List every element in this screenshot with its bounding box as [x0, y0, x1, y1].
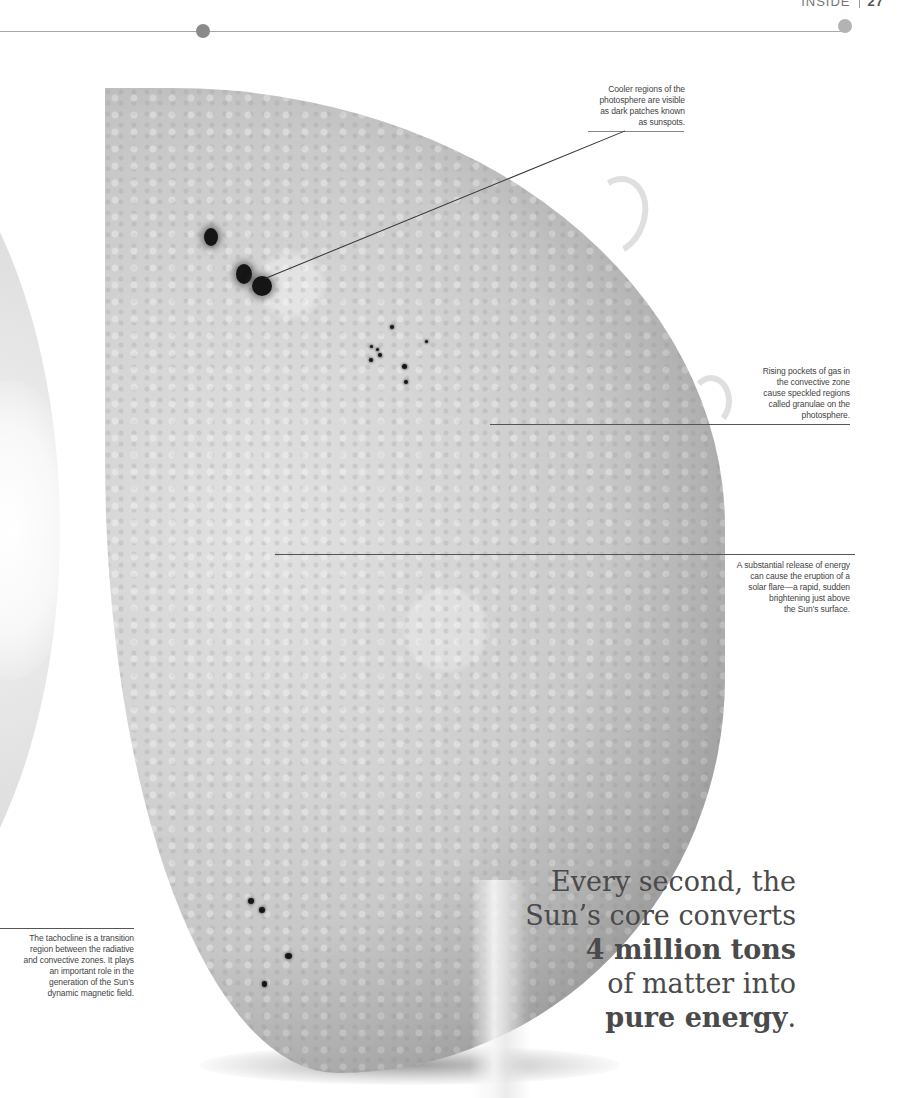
- quote-period: .: [787, 1002, 796, 1033]
- sunspot: [378, 353, 382, 357]
- sunspot: [376, 348, 379, 351]
- sunspot: [402, 364, 407, 369]
- sunspot: [236, 264, 252, 284]
- callout-leader-solar-flare: [275, 554, 855, 555]
- quote-line-1: Every second, the: [525, 865, 796, 899]
- sunspot: [204, 228, 218, 246]
- sunspot: [390, 325, 394, 329]
- sunspot: [252, 276, 272, 296]
- callout-granulae: Rising pockets of gas in the convective …: [700, 366, 850, 421]
- sunspot: [259, 907, 265, 913]
- sunspot: [369, 358, 373, 362]
- quote-line-3: 4 million tons: [525, 933, 796, 967]
- callout-sunspots: Cooler regions of the photosphere are vi…: [535, 84, 685, 128]
- sunspot: [262, 981, 267, 987]
- quote-line-4: of matter into: [525, 967, 796, 1001]
- callout-leader-tachocline: [0, 928, 134, 929]
- quote-line-2: Sun’s core converts: [525, 899, 796, 933]
- callout-leader-granulae: [490, 424, 850, 425]
- quote-line-5: pure energy.: [525, 1001, 796, 1035]
- solar-flare-stream: [470, 880, 530, 1098]
- sunspot: [370, 345, 373, 348]
- sunspot: [248, 898, 254, 904]
- pull-quote: Every second, the Sun’s core converts 4 …: [525, 865, 796, 1035]
- sunspot: [285, 953, 292, 959]
- sunspot: [404, 380, 408, 384]
- callout-leader-sunspots: [588, 131, 684, 132]
- callout-solar-flare: A substantial release of energy can caus…: [680, 560, 850, 615]
- callout-tachocline: The tachocline is a transition region be…: [0, 933, 134, 999]
- quote-emphasis: pure energy: [605, 1002, 787, 1033]
- sunspot: [425, 340, 428, 343]
